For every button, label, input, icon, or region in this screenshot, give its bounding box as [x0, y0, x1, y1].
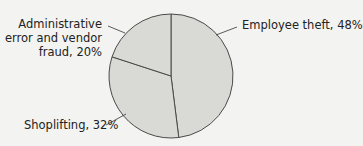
label-admin-line3: fraud, 20% — [5, 45, 102, 59]
label-employee-theft: Employee theft, 48% — [242, 18, 363, 32]
label-admin-line1: Administrative — [5, 17, 102, 31]
label-admin-line2: error and vendor — [5, 31, 102, 45]
leader-line-employee — [216, 27, 237, 35]
leader-line-admin — [108, 26, 125, 33]
label-shoplifting: Shoplifting, 32% — [24, 118, 118, 132]
label-administrative: Administrative error and vendor fraud, 2… — [5, 17, 102, 59]
pie-slice-employee-theft — [171, 14, 233, 138]
